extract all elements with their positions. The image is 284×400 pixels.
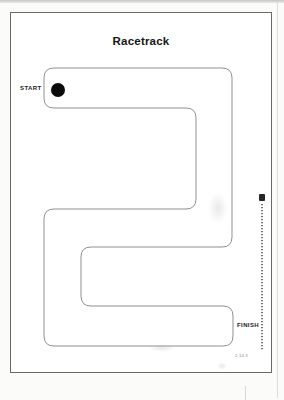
finish-label: FINISH [237, 322, 259, 328]
footer-code: 2.14.3 [235, 353, 248, 357]
racetrack-outline [44, 68, 233, 346]
scan-artifact-bottom [245, 386, 246, 400]
start-dot [51, 83, 65, 97]
publisher-logo-icon [259, 194, 265, 201]
scan-edge-right [277, 2, 278, 398]
start-label: START [20, 85, 42, 91]
racetrack-svg [11, 13, 273, 374]
worksheet-page: Racetrack START FINISH 2.14.3 [10, 12, 272, 373]
scan-edge-top [0, 0, 284, 3]
vertical-fine-print [261, 204, 263, 351]
